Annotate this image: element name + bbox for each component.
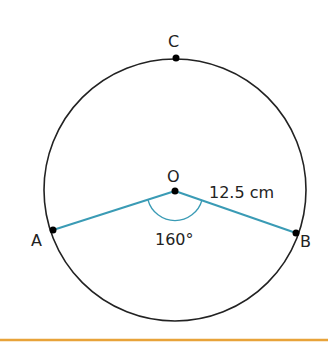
point-b — [293, 230, 300, 237]
point-a — [50, 227, 57, 234]
label-b: B — [300, 232, 311, 251]
angle-label: 160° — [155, 230, 194, 249]
point-c — [173, 55, 180, 62]
radius-oa — [53, 191, 175, 230]
label-c: C — [168, 32, 179, 51]
circle-diagram: C O A B 12.5 cm 160° — [0, 0, 328, 344]
label-o: O — [167, 167, 180, 186]
label-a: A — [31, 231, 42, 250]
radius-label: 12.5 cm — [209, 183, 274, 202]
point-o — [172, 188, 179, 195]
angle-arc — [148, 200, 202, 221]
